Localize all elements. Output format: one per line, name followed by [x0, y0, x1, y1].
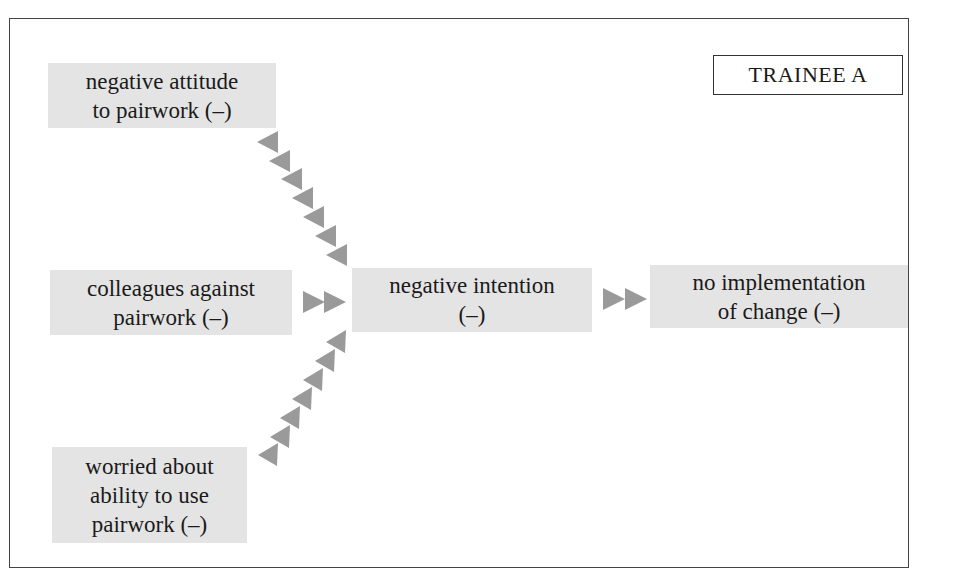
node-text-line: negative attitude [48, 67, 276, 96]
node-text-line: to pairwork (–) [48, 96, 276, 125]
node-colleagues-against: colleagues against pairwork (–) [50, 270, 292, 335]
node-negative-attitude: negative attitude to pairwork (–) [48, 63, 276, 128]
node-no-implementation: no implementation of change (–) [650, 265, 908, 328]
node-text-line: (–) [352, 300, 592, 329]
node-worried-about-ability: worried about ability to use pairwork (–… [52, 447, 247, 543]
node-text-line: worried about [52, 452, 247, 481]
node-negative-intention: negative intention (–) [352, 268, 592, 332]
node-text-line: ability to use [52, 481, 247, 510]
node-text-line: colleagues against [50, 274, 292, 303]
node-text-line: pairwork (–) [52, 510, 247, 539]
node-text-line: negative intention [352, 271, 592, 300]
node-text-line: no implementation [650, 268, 908, 297]
node-text-line: pairwork (–) [50, 303, 292, 332]
trainee-label: TRAINEE A [713, 55, 903, 95]
node-text-line: of change (–) [650, 297, 908, 326]
